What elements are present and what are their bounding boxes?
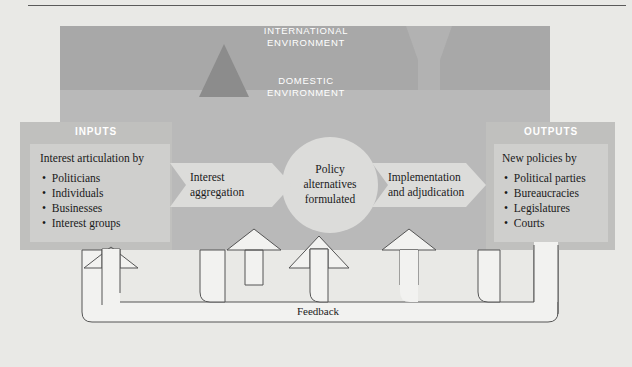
feedback-right-descent — [534, 242, 558, 302]
domestic-environment-label: DOMESTIC ENVIRONMENT — [267, 75, 345, 98]
feedback-label: Feedback — [297, 305, 340, 317]
outputs-title: New policies by — [502, 152, 577, 165]
aggregation-line2: aggregation — [190, 186, 245, 199]
inputs-item-2: • Businesses — [42, 202, 103, 214]
implementation-arrow — [372, 163, 486, 207]
policy-line2: alternatives — [303, 178, 357, 190]
outputs-item-3: • Courts — [504, 217, 545, 229]
diagram-canvas: INTERNATIONAL ENVIRONMENT DOMESTIC ENVIR… — [0, 0, 632, 367]
feedback-arrow-1-stem — [102, 249, 120, 312]
feedback-arrow-4-stem — [400, 250, 418, 302]
outputs-item-2: • Legislatures — [504, 202, 571, 215]
policy-line3: formulated — [305, 193, 356, 205]
domestic-label-line2: ENVIRONMENT — [267, 87, 345, 98]
aggregation-line1: Interest — [190, 171, 225, 183]
environment-funnel-stem — [418, 60, 440, 90]
inputs-header: INPUTS — [75, 126, 117, 137]
feedback-channel-5 — [478, 250, 500, 302]
feedback-channel-2 — [200, 250, 225, 302]
inputs-item-3: • Interest groups — [42, 217, 121, 230]
implementation-line1: Implementation — [388, 171, 461, 184]
international-environment-label: INTERNATIONAL ENVIRONMENT — [264, 25, 348, 48]
international-label-line2: ENVIRONMENT — [267, 37, 345, 48]
policy-line1: Policy — [315, 163, 345, 176]
outputs-item-1: • Bureaucracies — [504, 187, 579, 199]
outputs-item-0: • Political parties — [504, 172, 586, 185]
domestic-label-line1: DOMESTIC — [278, 75, 334, 86]
feedback-arrow-3-stem — [310, 249, 328, 302]
inputs-item-0: • Politicians — [42, 172, 101, 184]
inputs-item-1: • Individuals — [42, 187, 104, 199]
outputs-header: OUTPUTS — [524, 126, 578, 137]
inputs-title: Interest articulation by — [40, 152, 144, 165]
interest-aggregation-arrow — [170, 163, 292, 207]
international-label-line1: INTERNATIONAL — [264, 25, 348, 36]
implementation-line2: and adjudication — [388, 186, 465, 199]
